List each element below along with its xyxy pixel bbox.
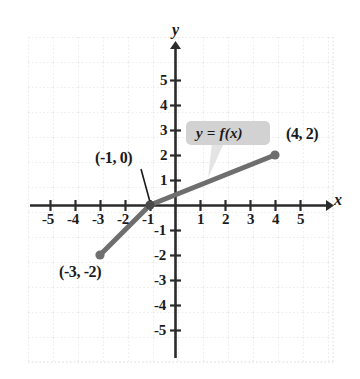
x-tick-label-4: 4 <box>272 212 279 227</box>
x-tick-label-3: 3 <box>247 212 254 227</box>
y-tick-label-1: 1 <box>160 173 167 188</box>
coordinate-plane <box>0 0 360 379</box>
y-tick-label-neg4: -4 <box>154 298 166 313</box>
x-tick-label-neg2: -2 <box>117 212 129 227</box>
point-marker-neg1-0 <box>145 200 154 209</box>
y-tick-label-neg1: -1 <box>154 223 166 238</box>
x-axis-label: x <box>334 192 342 208</box>
y-tick-label-neg2: -2 <box>154 248 166 263</box>
point-marker-4-2 <box>270 150 279 159</box>
label-neg3-neg2: (-3, -2) <box>59 264 101 280</box>
y-tick-label-4: 4 <box>160 98 167 113</box>
label-neg1-0: (-1, 0) <box>95 150 132 166</box>
function-callout-label: y = f(x) <box>196 126 243 141</box>
x-tick-label-neg5: -5 <box>42 212 54 227</box>
x-tick-label-5: 5 <box>297 212 304 227</box>
label-4-2: (4, 2) <box>286 126 318 142</box>
y-tick-label-2: 2 <box>160 148 167 163</box>
y-tick-label-neg3: -3 <box>154 273 166 288</box>
y-axis-label: y <box>172 22 179 38</box>
point-marker-neg3-neg2 <box>95 250 104 259</box>
y-tick-label-neg5: -5 <box>154 323 166 338</box>
y-tick-label-3: 3 <box>160 123 167 138</box>
x-tick-label-1: 1 <box>197 212 204 227</box>
x-tick-label-neg1: -1 <box>142 212 154 227</box>
x-tick-label-2: 2 <box>222 212 229 227</box>
x-tick-label-neg3: -3 <box>92 212 104 227</box>
y-tick-label-5: 5 <box>160 73 167 88</box>
grid <box>28 37 333 362</box>
graph-figure: y = f(x) y x -5 -4 -3 -2 -1 1 2 3 4 5 5 … <box>0 0 360 379</box>
x-tick-label-neg4: -4 <box>67 212 79 227</box>
